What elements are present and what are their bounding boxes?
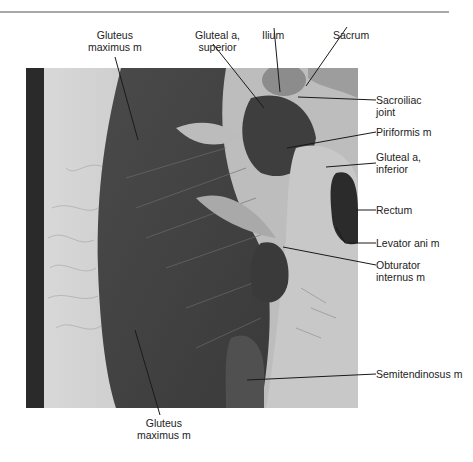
label-gluteal-artery-inferior: Gluteal a, inferior [376,152,421,175]
label-gluteus-maximus-top: Gluteus maximus m [88,30,142,53]
label-gluteus-maximus-bottom: Gluteus maximus m [137,418,191,441]
label-ilium: Ilium [262,30,284,42]
label-obturator-internus: Obturator internus m [376,260,425,283]
label-sacrum: Sacrum [333,30,369,42]
mri-scan-graphic [26,68,358,408]
label-sacroiliac-joint: Sacroiliac joint [376,95,422,118]
label-levator-ani: Levator ani m [376,238,440,250]
label-rectum: Rectum [376,205,412,217]
label-piriformis: Piriformis m [376,127,431,139]
label-gluteal-artery-superior: Gluteal a, superior [195,30,240,53]
mri-image [26,68,358,408]
top-rule [0,11,449,13]
label-semitendinosus: Semitendinosus m [376,369,462,381]
